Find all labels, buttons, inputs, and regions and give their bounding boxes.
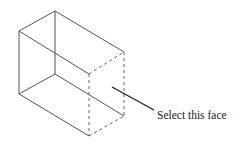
box-solid-edges xyxy=(19,11,124,136)
face-edge-top xyxy=(89,52,124,74)
box-diagram: Select this face xyxy=(0,0,251,147)
edge-bottom-back-left xyxy=(19,74,55,94)
edge-top-front xyxy=(19,31,89,74)
edge-top-left xyxy=(19,11,55,31)
face-edge-bottom xyxy=(89,116,124,136)
edge-top-right xyxy=(55,11,124,52)
face-label: Select this face xyxy=(157,109,227,121)
leader-line xyxy=(112,87,154,110)
selectable-face[interactable] xyxy=(89,52,124,136)
edge-bottom-front xyxy=(19,94,89,136)
